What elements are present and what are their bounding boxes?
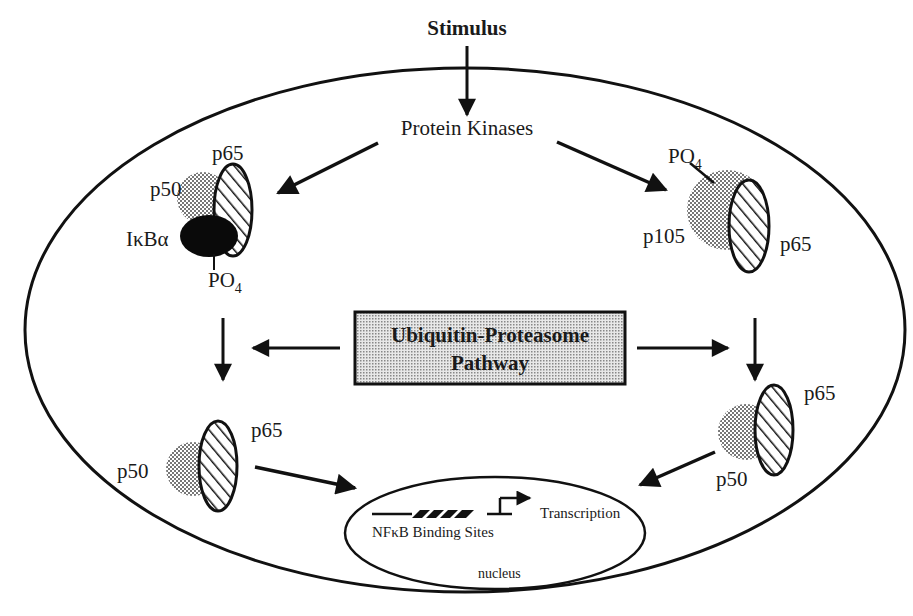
right-po4-label: PO4 (668, 144, 702, 172)
left-p50-label: p50 (150, 177, 182, 201)
protein-kinases-label: Protein Kinases (401, 116, 533, 140)
left-dimer-p65-label: p65 (251, 418, 283, 442)
nfkb-pathway-diagram: Stimulus Protein Kinases p65 p50 IκBα PO… (0, 0, 913, 616)
right-p65-label: p65 (780, 232, 812, 256)
p105-label: p105 (643, 224, 685, 248)
transcription-label: Transcription (540, 505, 621, 521)
right-complex (687, 163, 769, 272)
p65-subunit (199, 421, 237, 511)
ubiquitin-proteasome-line2: Pathway (451, 351, 530, 375)
left-nfkb-dimer (166, 421, 237, 511)
right-nfkb-dimer (718, 385, 793, 475)
ubiquitin-proteasome-line1: Ubiquitin-Proteasome (391, 323, 589, 347)
ikba-subunit (180, 215, 238, 257)
left-dimer-p50-label: p50 (117, 459, 149, 483)
right-dimer-p65-label: p65 (804, 381, 836, 405)
left-dimer-to-nucleus-arrow (255, 467, 355, 488)
binding-sites-label: NFκB Binding Sites (372, 524, 494, 540)
left-po4-label: PO4 (208, 268, 242, 296)
left-complex (177, 164, 252, 270)
left-p65-label: p65 (212, 141, 244, 165)
kinase-to-left-arrow (278, 143, 378, 193)
right-dimer-p50-label: p50 (716, 467, 748, 491)
ikba-label: IκBα (126, 227, 169, 251)
p65-subunit (729, 180, 769, 272)
nucleus-label: nucleus (478, 566, 521, 581)
right-dimer-to-nucleus-arrow (640, 452, 715, 485)
stimulus-label: Stimulus (427, 16, 506, 40)
kinase-to-right-arrow (557, 142, 666, 190)
p65-subunit (755, 385, 793, 475)
